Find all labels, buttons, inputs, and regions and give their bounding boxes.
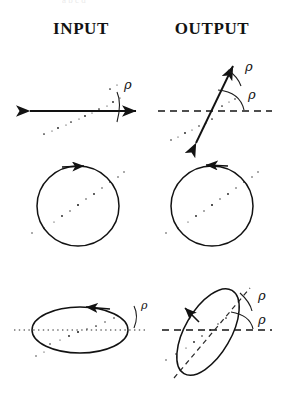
angle-arc-upper: [240, 293, 252, 311]
row-linear-output: [158, 66, 272, 143]
speckle-diagonal: [170, 98, 236, 141]
elliptical-polarization-ellipse: [164, 279, 252, 385]
angle-arc-lower: [218, 90, 244, 110]
rotation-arrow-counter-clockwise: [206, 165, 228, 166]
elliptical-polarization-ellipse: [32, 307, 128, 353]
row-elliptical-input: [14, 306, 146, 357]
row-elliptical-output: [162, 279, 272, 385]
angle-label-rho-linear-output-lower: ρ: [248, 88, 256, 101]
linear-polarization-arrow: [196, 66, 233, 143]
rotation-arrow-counter-clockwise: [185, 308, 199, 322]
row-circular-output: [165, 165, 258, 246]
angle-label-rho-linear-output-upper: ρ: [245, 60, 253, 73]
row-linear-input: [30, 84, 136, 134]
rotation-arrow-counter-clockwise: [86, 307, 110, 309]
angle-label-rho-elliptical-output-lower: ρ: [258, 313, 266, 326]
speckle-diagonal: [43, 84, 120, 134]
angle-arc: [134, 306, 137, 328]
polarization-figure: [0, 0, 284, 395]
angle-arc-lower: [231, 312, 253, 329]
angle-label-rho-elliptical-input: ρ: [141, 300, 147, 311]
speckle-diagonal: [165, 317, 227, 361]
angle-arc: [117, 92, 120, 122]
row-circular-input: [31, 166, 124, 246]
angle-label-rho-linear-input: ρ: [124, 78, 132, 91]
angle-label-rho-elliptical-output-upper: ρ: [258, 289, 266, 302]
rotation-arrow-clockwise: [62, 166, 84, 167]
